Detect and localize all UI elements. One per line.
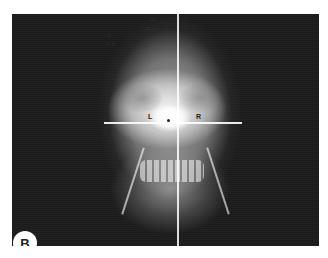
handwritten-annotation: fl [108, 32, 111, 38]
handwritten-annotation: → R.m [140, 26, 156, 32]
center-point-marker [167, 119, 170, 122]
right-orbit [180, 84, 220, 112]
radiograph-image: L R H.I → R.m fl fl. d d B [12, 14, 319, 246]
left-orbit [122, 84, 162, 112]
handwritten-annotation: H.I [150, 16, 156, 22]
handwritten-annotation: d [144, 42, 147, 48]
dentition [140, 160, 204, 182]
panel-label-text: B [20, 236, 29, 247]
left-marker: L [148, 113, 152, 120]
horizontal-reference-line [104, 122, 242, 124]
skull-silhouette [12, 14, 319, 246]
right-marker: R [196, 113, 201, 120]
handwritten-annotation: fl. d [106, 41, 114, 47]
midline-reference-line [177, 14, 179, 246]
